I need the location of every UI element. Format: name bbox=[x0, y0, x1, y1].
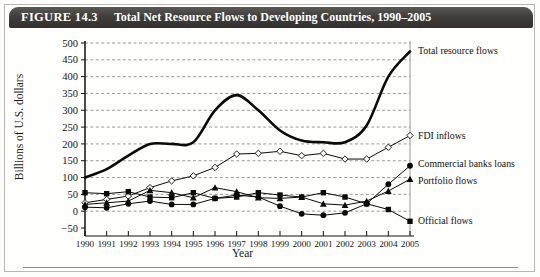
series-marker-official-flows bbox=[386, 207, 391, 212]
x-axis-tick-label: 1994 bbox=[162, 239, 181, 249]
series-marker-official-flows bbox=[364, 201, 369, 206]
series-marker-official-flows bbox=[256, 190, 261, 195]
figure-container: FIGURE 14.3 Total Net Resource Flows to … bbox=[0, 0, 540, 277]
series-marker-fdi-inflows bbox=[342, 156, 348, 162]
series-marker-fdi-inflows bbox=[190, 173, 196, 179]
series-marker-official-flows bbox=[126, 189, 131, 194]
x-axis-tick-label: 1997 bbox=[227, 239, 246, 249]
series-marker-commercial-banks-loans bbox=[342, 210, 348, 216]
y-axis-tick-label: 100 bbox=[62, 172, 78, 183]
y-axis-tick-label: 300 bbox=[62, 105, 78, 116]
y-axis-tick-label: 150 bbox=[62, 155, 78, 166]
series-label-official-flows: Official flows bbox=[418, 215, 473, 226]
y-axis-tick-label: 250 bbox=[62, 122, 78, 133]
series-marker-fdi-inflows bbox=[320, 150, 326, 156]
series-marker-commercial-banks-loans bbox=[190, 202, 196, 208]
x-axis-tick-label: 1992 bbox=[119, 239, 138, 249]
series-marker-commercial-banks-loans bbox=[320, 212, 326, 218]
series-marker-official-flows bbox=[191, 190, 196, 195]
series-marker-official-flows bbox=[169, 195, 174, 200]
x-axis-tick-label: 2004 bbox=[379, 239, 398, 249]
line-chart-plot: −500501001502002503003504004505001990199… bbox=[5, 29, 535, 271]
series-marker-fdi-inflows bbox=[277, 148, 283, 154]
series-marker-official-flows bbox=[234, 194, 239, 199]
x-axis-tick-label: 1998 bbox=[249, 239, 268, 249]
series-marker-portfolio-flows bbox=[407, 176, 414, 182]
x-axis-tick-label: 1999 bbox=[271, 239, 290, 249]
x-axis-tick-label: 1996 bbox=[206, 239, 225, 249]
series-marker-commercial-banks-loans bbox=[169, 202, 175, 208]
series-marker-official-flows bbox=[299, 194, 304, 199]
series-marker-official-flows bbox=[212, 196, 217, 201]
series-marker-fdi-inflows bbox=[385, 144, 391, 150]
x-axis-tick-label: 1990 bbox=[76, 239, 95, 249]
series-marker-fdi-inflows bbox=[255, 150, 261, 156]
y-axis-tick-label: 200 bbox=[62, 139, 78, 150]
figure-bottom-rule bbox=[23, 267, 518, 268]
series-marker-fdi-inflows bbox=[168, 178, 174, 184]
series-marker-official-flows bbox=[407, 219, 412, 224]
chart-area: Billions of U.S. dollars Year −500501001… bbox=[5, 29, 535, 271]
x-axis-tick-label: 2002 bbox=[336, 239, 355, 249]
y-axis-tick-label: 500 bbox=[62, 38, 78, 49]
series-marker-commercial-banks-loans bbox=[104, 205, 110, 211]
y-axis-tick-label: −50 bbox=[62, 223, 78, 234]
x-axis-tick-label: 2001 bbox=[314, 239, 333, 249]
series-marker-official-flows bbox=[147, 194, 152, 199]
series-line-portfolio-flows bbox=[85, 179, 410, 205]
series-label-total-resource-flows: Total resource flows bbox=[418, 45, 498, 56]
series-marker-official-flows bbox=[277, 192, 282, 197]
series-marker-official-flows bbox=[82, 190, 87, 195]
y-axis-tick-label: 450 bbox=[62, 54, 78, 65]
series-marker-portfolio-flows bbox=[212, 184, 219, 190]
series-label-portfolio-flows: Portfolio flows bbox=[418, 175, 477, 186]
figure-number: FIGURE 14.3 bbox=[21, 10, 98, 25]
x-axis-tick-label: 1995 bbox=[184, 239, 203, 249]
x-axis-tick-label: 1993 bbox=[141, 239, 160, 249]
series-marker-fdi-inflows bbox=[233, 151, 239, 157]
x-axis-tick-label: 2005 bbox=[401, 239, 420, 249]
figure-caption: Total Net Resource Flows to Developing C… bbox=[114, 10, 431, 25]
y-axis-tick-label: 350 bbox=[62, 88, 78, 99]
x-axis-tick-label: 2003 bbox=[357, 239, 376, 249]
series-marker-fdi-inflows bbox=[212, 164, 218, 170]
x-axis-tick-label: 2000 bbox=[292, 239, 311, 249]
series-marker-fdi-inflows bbox=[407, 132, 413, 138]
series-marker-official-flows bbox=[321, 190, 326, 195]
series-marker-commercial-banks-loans bbox=[277, 203, 283, 209]
series-marker-portfolio-flows bbox=[385, 188, 392, 194]
series-marker-fdi-inflows bbox=[298, 152, 304, 158]
x-axis-tick-label: 1991 bbox=[97, 239, 116, 249]
y-axis-tick-label: 50 bbox=[68, 189, 79, 200]
series-marker-fdi-inflows bbox=[363, 156, 369, 162]
figure-title-bar: FIGURE 14.3 Total Net Resource Flows to … bbox=[9, 7, 533, 28]
series-marker-commercial-banks-loans bbox=[407, 163, 413, 169]
series-marker-official-flows bbox=[342, 194, 347, 199]
series-marker-commercial-banks-loans bbox=[385, 181, 391, 187]
series-label-commercial-banks-loans: Commercial banks loans bbox=[418, 158, 515, 169]
series-marker-official-flows bbox=[104, 191, 109, 196]
series-marker-commercial-banks-loans bbox=[299, 211, 305, 217]
y-axis-tick-label: 400 bbox=[62, 71, 78, 82]
y-axis-tick-label: 0 bbox=[73, 206, 78, 217]
series-label-fdi-inflows: FDI inflows bbox=[418, 130, 466, 141]
series-line-commercial-banks-loans bbox=[85, 166, 410, 215]
